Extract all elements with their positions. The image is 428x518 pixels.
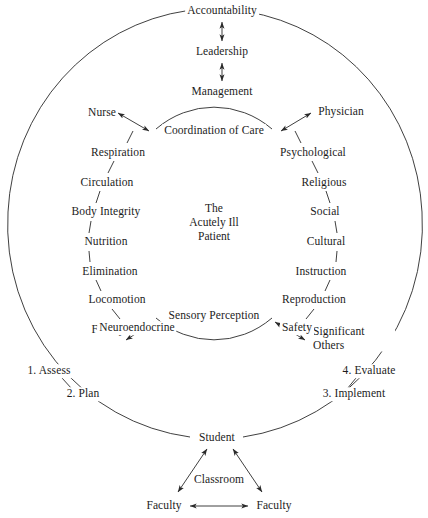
tick-social-cultural	[335, 221, 337, 233]
node-faculty-right: Faculty	[254, 499, 293, 513]
tick-cultural-instruction	[336, 251, 337, 262]
node-student: Student	[197, 431, 237, 445]
node-nutrition: Nutrition	[82, 235, 129, 249]
node-elimination: Elimination	[80, 265, 139, 279]
node-step-evaluate: 4. Evaluate	[341, 364, 398, 378]
arrow-physician-coordination	[281, 113, 311, 131]
node-safety: Safety	[280, 321, 314, 335]
node-significant-others: Significant Others	[311, 325, 395, 352]
arrow-nurse-coordination	[118, 113, 149, 131]
tick-instruction-reproduction	[325, 280, 330, 291]
center-label-acutely-ill-patient: The Acutely Ill Patient	[189, 201, 239, 243]
node-neuroendocrine: Neuroendocrine	[97, 321, 176, 335]
node-social: Social	[308, 205, 341, 219]
tick-bodyintegrity-nutrition	[89, 221, 91, 233]
node-nurse: Nurse	[86, 106, 118, 120]
node-reproduction: Reproduction	[280, 293, 348, 307]
node-locomotion: Locomotion	[86, 293, 147, 307]
tick-psychological-religious	[312, 161, 318, 173]
node-religious: Religious	[300, 176, 349, 190]
tick-religious-social	[326, 191, 330, 203]
tick-reproduction-safety	[306, 309, 314, 319]
node-step-assess: 1. Assess	[25, 364, 72, 378]
node-step-plan: 2. Plan	[65, 387, 102, 401]
node-step-implement: 3. Implement	[321, 387, 388, 401]
node-classroom: Classroom	[192, 473, 246, 487]
node-cultural: Cultural	[305, 235, 348, 249]
tick-respiration-circulation	[108, 161, 114, 173]
node-circulation: Circulation	[79, 176, 136, 190]
node-accountability: Accountability	[185, 4, 259, 18]
tick-locomotion-neuroendocrine	[112, 309, 120, 319]
tick-coordination-psychological	[295, 131, 301, 143]
node-faculty-left: Faculty	[144, 499, 183, 513]
node-management: Management	[189, 85, 254, 99]
node-psychological: Psychological	[278, 146, 348, 160]
node-instruction: Instruction	[294, 265, 349, 279]
node-sensory-perception: Sensory Perception	[167, 309, 262, 323]
node-respiration: Respiration	[89, 146, 147, 160]
diagram-canvas: Accountability Leadership Management Nur…	[0, 0, 428, 518]
tick-nutrition-elimination	[89, 251, 90, 262]
tick-elimination-locomotion	[96, 280, 101, 291]
node-leadership: Leadership	[194, 45, 250, 59]
node-body-integrity: Body Integrity	[70, 205, 143, 219]
tick-circulation-bodyintegrity	[96, 191, 100, 203]
tick-coordination-respiration	[127, 131, 133, 143]
node-coordination-of-care: Coordination of Care	[162, 124, 266, 138]
node-physician: Physician	[316, 105, 366, 119]
